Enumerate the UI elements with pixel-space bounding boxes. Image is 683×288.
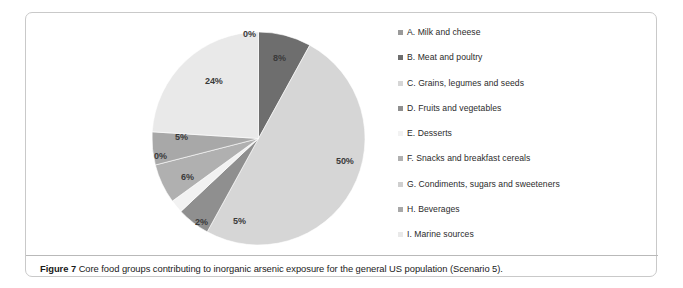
legend-item[interactable]: C. Grains, legumes and seeds (398, 78, 648, 89)
legend-item[interactable]: F. Snacks and breakfast cereals (398, 153, 648, 164)
caption-text: Core food groups contributing to inorgan… (79, 263, 503, 274)
pie-graphic: 0%8%50%5%2%6%0%5%24% (151, 31, 366, 246)
slice-percentage-label: 5% (233, 216, 246, 226)
slice-percentage-label: 6% (181, 172, 194, 182)
legend-swatch-icon (398, 182, 403, 187)
legend-swatch-icon (398, 207, 403, 212)
legend-swatch-icon (398, 81, 403, 86)
legend-item[interactable]: E. Desserts (398, 128, 648, 139)
figure-caption: Figure 7 Core food groups contributing t… (40, 262, 650, 275)
legend-item[interactable]: B. Meat and poultry (398, 52, 648, 63)
legend-item[interactable]: D. Fruits and vegetables (398, 103, 648, 114)
legend: A. Milk and cheeseB. Meat and poultryC. … (398, 27, 648, 255)
legend-swatch-icon (398, 156, 403, 161)
legend-item[interactable]: I. Marine sources (398, 229, 648, 240)
caption-label: Figure 7 (40, 263, 76, 274)
caption-divider (26, 255, 658, 256)
legend-swatch-icon (398, 30, 403, 35)
slice-percentage-label: 0% (154, 151, 167, 161)
legend-swatch-icon (398, 55, 403, 60)
legend-swatch-icon (398, 106, 403, 111)
slice-percentage-label: 5% (175, 132, 188, 142)
legend-item[interactable]: A. Milk and cheese (398, 27, 648, 38)
slice-percentage-label: 8% (273, 53, 286, 63)
legend-item-label: I. Marine sources (407, 229, 474, 240)
slice-percentage-label: 2% (195, 217, 208, 227)
legend-item-label: B. Meat and poultry (407, 52, 482, 63)
legend-item-label: F. Snacks and breakfast cereals (407, 153, 530, 164)
slice-percentage-label: 0% (243, 29, 256, 39)
legend-item-label: C. Grains, legumes and seeds (407, 78, 524, 89)
legend-item[interactable]: G. Condiments, sugars and sweeteners (398, 179, 648, 190)
figure-panel: 0%8%50%5%2%6%0%5%24% A. Milk and cheeseB… (25, 12, 657, 277)
legend-item[interactable]: H. Beverages (398, 204, 648, 215)
legend-swatch-icon (398, 131, 403, 136)
legend-item-label: H. Beverages (407, 204, 460, 215)
pie-chart: 0%8%50%5%2%6%0%5%24% (26, 13, 386, 245)
legend-swatch-icon (398, 232, 403, 237)
legend-item-label: E. Desserts (407, 128, 452, 139)
legend-item-label: A. Milk and cheese (407, 27, 481, 38)
slice-percentage-label: 50% (336, 156, 354, 166)
slice-percentage-label: 24% (205, 76, 223, 86)
legend-item-label: D. Fruits and vegetables (407, 103, 501, 114)
legend-item-label: G. Condiments, sugars and sweeteners (407, 179, 560, 190)
